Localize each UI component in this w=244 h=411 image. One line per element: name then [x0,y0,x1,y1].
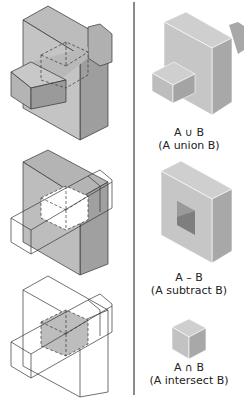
subtract-setup-diagram [0,130,130,270]
intersect-symbol-label: A ∩ B [134,361,244,374]
union-symbol-label: A ∪ B [134,126,244,139]
intersect-setup-diagram [0,270,130,411]
subtract-symbol-label: A – B [134,271,244,284]
subtract-caption: (A subtract B) [134,284,244,297]
subtract-result-shape [134,155,244,270]
intersect-caption: (A intersect B) [134,374,244,387]
union-caption: (A union B) [134,139,244,152]
intersect-result-shape [134,315,244,365]
union-result-shape [134,0,244,125]
union-setup-diagram [0,0,130,135]
